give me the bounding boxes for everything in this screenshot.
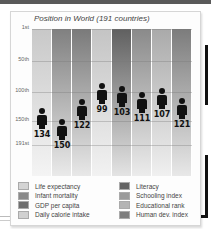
gridline [32, 29, 192, 30]
scroll-marker [200, 215, 208, 218]
person-marker: 107 [152, 88, 172, 119]
person-icon [97, 90, 107, 100]
person-marker: 134 [32, 108, 52, 139]
legend-label: Human dev. index [136, 211, 188, 218]
person-icon [157, 95, 167, 105]
scroll-marker [205, 45, 208, 105]
person-marker: 99 [92, 83, 112, 114]
person-icon [79, 99, 85, 105]
rank-value: 107 [152, 110, 172, 119]
legend-swatch [119, 211, 130, 219]
legend-label: Infant mortality [35, 192, 78, 199]
rank-value: 134 [32, 130, 52, 139]
legend-item: Educational rank [119, 201, 184, 209]
person-icon [119, 86, 125, 92]
person-icon [59, 119, 65, 125]
person-icon [79, 116, 85, 120]
person-icon [117, 93, 127, 103]
rank-value: 150 [52, 141, 72, 150]
person-icon [179, 98, 185, 104]
gridline [32, 61, 192, 62]
person-icon [179, 115, 185, 119]
bar-column [52, 29, 72, 176]
legend-item: Literacy [119, 182, 159, 190]
person-icon [139, 109, 145, 113]
legend-label: Educational rank [136, 202, 184, 209]
legend-swatch [18, 211, 29, 219]
legend-item: Life expectancy [18, 182, 80, 190]
person-icon [139, 92, 145, 98]
rank-value: 121 [172, 120, 192, 129]
chart-title: Position in World (191 countries) [34, 14, 150, 23]
legend-label: GDP per capita [35, 202, 79, 209]
legend-swatch [18, 192, 29, 200]
person-icon [77, 106, 87, 116]
legend-swatch [18, 182, 29, 190]
legend-item: Human dev. index [119, 211, 188, 219]
legend-swatch [119, 192, 130, 200]
person-marker: 150 [52, 119, 72, 150]
plot-area: 13415012299103111107121 [32, 29, 192, 176]
legend-swatch [119, 201, 130, 209]
legend-item: Infant mortality [18, 192, 78, 200]
person-icon [99, 83, 105, 89]
rank-value: 111 [132, 114, 152, 123]
person-icon [177, 105, 187, 115]
legend-item: Daily calorie intake [18, 211, 90, 219]
person-icon [37, 115, 47, 125]
person-icon [59, 136, 65, 140]
person-icon [39, 125, 45, 129]
rank-value: 122 [72, 121, 92, 130]
y-tick-label: 50th [0, 56, 32, 62]
legend-item: Schooling index [119, 192, 182, 200]
y-tick-label: 150th [0, 116, 32, 122]
legend-label: Life expectancy [35, 183, 80, 190]
person-marker: 121 [172, 98, 192, 129]
rank-value: 99 [92, 105, 112, 114]
top-bar [0, 0, 211, 4]
legend-label: Literacy [136, 183, 159, 190]
legend-item: GDP per capita [18, 201, 79, 209]
person-icon [159, 105, 165, 109]
person-icon [119, 103, 125, 107]
person-icon [159, 88, 165, 94]
y-tick-label: 100th [0, 87, 32, 93]
person-icon [39, 108, 45, 114]
person-marker: 111 [132, 92, 152, 123]
legend-swatch [18, 201, 29, 209]
person-marker: 122 [72, 99, 92, 130]
y-tick-label: 191st [0, 140, 32, 146]
person-icon [57, 126, 67, 136]
y-tick-label: 1st [0, 24, 32, 30]
scroll-marker [205, 155, 208, 217]
bar-column [32, 29, 52, 176]
person-marker: 103 [112, 86, 132, 117]
person-icon [99, 100, 105, 104]
person-icon [137, 99, 147, 109]
rank-value: 103 [112, 108, 132, 117]
legend-label: Schooling index [136, 192, 182, 199]
legend-swatch [119, 182, 130, 190]
legend-label: Daily calorie intake [35, 211, 90, 218]
